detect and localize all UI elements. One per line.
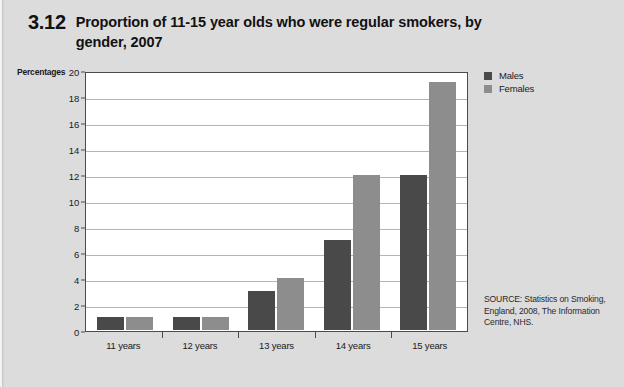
y-axis-tick-label: 4: [74, 275, 79, 286]
y-axis-tick-mark: [81, 150, 85, 151]
bar-females[interactable]: [429, 82, 456, 330]
legend-swatch-icon: [484, 85, 492, 93]
y-axis-tick-label: 8: [74, 223, 79, 234]
y-axis-tick-mark: [81, 254, 85, 255]
bar-females[interactable]: [353, 175, 380, 329]
y-axis-tick-label: 6: [74, 249, 79, 260]
y-axis-tick-label: 0: [74, 327, 79, 338]
bars-layer: [88, 75, 466, 330]
bar-females[interactable]: [277, 278, 304, 329]
bar-males[interactable]: [173, 317, 200, 330]
bar-chart: 02468101214161820 11 years12 years13 yea…: [85, 72, 468, 332]
y-axis-tick-mark: [81, 176, 85, 177]
page-scan-edge: [0, 0, 4, 387]
bar-males[interactable]: [97, 317, 124, 330]
y-axis-tick-label: 2: [74, 301, 79, 312]
y-axis-tick-mark: [81, 98, 85, 99]
y-axis-tick-label: 12: [69, 171, 79, 182]
y-axis-unit-label: Percentages: [17, 67, 65, 77]
y-axis-tick-mark: [81, 202, 85, 203]
x-axis-category-label: 12 years: [182, 340, 217, 351]
x-axis-category-label: 13 years: [259, 340, 294, 351]
x-axis-tick-mark: [238, 332, 239, 338]
bar-group: [163, 75, 239, 330]
y-axis-tick-label: 20: [69, 67, 79, 78]
x-axis: 11 years12 years13 years14 years15 years: [85, 332, 468, 360]
source-note: SOURCE: Statistics on Smoking, England, …: [484, 294, 616, 329]
y-axis-tick-mark: [81, 124, 85, 125]
bar-females[interactable]: [202, 317, 229, 330]
bar-males[interactable]: [248, 291, 275, 330]
legend-item-females[interactable]: Females: [484, 82, 534, 95]
y-axis-tick-label: 10: [69, 197, 79, 208]
x-axis-category-label: 14 years: [336, 340, 371, 351]
page-title: Proportion of 11-15 year olds who were r…: [76, 12, 506, 52]
bar-group: [314, 75, 390, 330]
figure-number: 3.12: [28, 12, 66, 33]
figure-title-block: 3.12 Proportion of 11-15 year olds who w…: [28, 12, 548, 52]
x-axis-tick-mark: [391, 332, 392, 338]
bar-group: [390, 75, 466, 330]
x-axis-tick-mark: [315, 332, 316, 338]
y-axis-tick-mark: [81, 228, 85, 229]
legend-item-label: Females: [499, 83, 534, 94]
y-axis-tick-label: 18: [69, 93, 79, 104]
plot-area: [85, 72, 468, 332]
legend-item-label: Males: [499, 70, 523, 81]
bar-group: [88, 75, 164, 330]
bar-males[interactable]: [324, 240, 351, 330]
bar-group: [239, 75, 315, 330]
y-axis-tick-label: 16: [69, 119, 79, 130]
x-axis-tick-mark: [162, 332, 163, 338]
legend-item-males[interactable]: Males: [484, 69, 534, 82]
y-axis-tick-mark: [81, 306, 85, 307]
y-axis-tick-mark: [81, 72, 85, 73]
x-axis-category-label: 15 years: [412, 340, 447, 351]
chart-legend: MalesFemales: [484, 69, 534, 95]
legend-swatch-icon: [484, 72, 492, 80]
y-axis-tick-label: 14: [69, 145, 79, 156]
y-axis-tick-mark: [81, 280, 85, 281]
x-axis-category-label: 11 years: [106, 340, 140, 351]
bar-males[interactable]: [400, 175, 427, 329]
bar-females[interactable]: [126, 317, 153, 330]
